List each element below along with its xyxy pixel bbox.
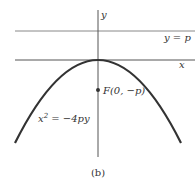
parabola-figure: y x y = p F(0, −p) x2 = −4py (b) <box>0 0 195 188</box>
equation-label: x2 = −4py <box>38 112 90 124</box>
figure-caption: (b) <box>91 167 105 178</box>
y-axis-label: y <box>100 9 107 20</box>
focus-label: F(0, −p) <box>102 85 145 96</box>
focus-point <box>96 88 100 92</box>
directrix-label: y = p <box>163 32 191 43</box>
diagram-canvas: y x y = p F(0, −p) x2 = −4py (b) <box>0 0 195 188</box>
x-axis-label: x <box>179 59 185 70</box>
